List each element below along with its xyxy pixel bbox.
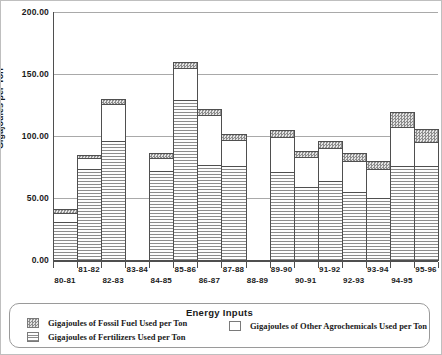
legend-entry: Gigajoules of Fertilizers Used per Ton [27,332,186,342]
x-tick-label: 90-91 [295,276,316,285]
bar-segment-82-83 [101,141,126,261]
legend-label: Gigajoules of Other Agrochemicals Used p… [250,321,427,331]
bar-segment-80-81 [53,222,78,261]
x-tick [294,262,295,268]
bar-segment-85-86 [173,100,198,261]
y-tick-label: 150.00 [9,69,49,79]
x-tick-label: 87-88 [223,265,244,274]
bar-segment-81-82 [77,155,102,160]
bar-segment-87-88 [221,140,246,167]
x-tick [390,262,391,268]
legend-swatch-white-icon [229,321,241,331]
bar-segment-92-93 [342,192,367,261]
y-axis-title: Gigajoules per Ton [0,68,5,149]
bar-segment-80-81 [53,213,78,223]
x-tick [101,262,102,268]
bar-segment-89-90 [270,137,295,173]
x-tick-label: 83-84 [126,265,147,274]
bar-segment-91-92 [318,148,343,181]
plot-area: 200.00150.00100.0050.000.0080-8181-8282-… [1,1,442,301]
bar-segment-92-93 [342,161,367,193]
bar-segment-91-92 [318,141,343,149]
x-tick-label: 88-89 [247,276,268,285]
x-tick-label: 92-93 [343,276,364,285]
bar-segment-95-96 [414,129,439,144]
bar-segment-94-95 [390,166,415,261]
x-tick-label: 86-87 [199,276,220,285]
bar-segment-93-94 [366,161,391,171]
bar-segment-87-88 [221,134,246,141]
bar-segment-86-87 [197,109,222,116]
x-tick [438,262,439,268]
bar-segment-94-95 [390,112,415,128]
x-tick-label: 82-83 [102,276,123,285]
bar-segment-85-86 [173,68,198,101]
bar-segment-90-91 [294,151,319,158]
bar-segment-84-85 [149,171,174,261]
x-tick [246,262,247,268]
x-tick [342,262,343,268]
gridline [53,12,438,13]
y-tick-label: 100.00 [9,131,49,141]
x-axis-title: Energy Inputs [10,307,429,318]
legend-entry: Gigajoules of Other Agrochemicals Used p… [229,321,427,331]
legend-entry: Gigajoules of Fossil Fuel Used per Ton [27,318,187,328]
bar-segment-82-83 [101,104,126,142]
bar-segment-84-85 [149,158,174,171]
bar-segment-81-82 [77,169,102,261]
x-tick-label: 91-92 [319,265,340,274]
bar-segment-82-83 [101,99,126,105]
bar-segment-89-90 [270,172,295,261]
y-tick-label: 50.00 [9,193,49,203]
x-tick [53,262,54,268]
y-tick-label: 0.00 [9,255,49,265]
bar-segment-85-86 [173,62,198,69]
x-tick-label: 95-96 [415,265,436,274]
gridline [53,74,438,75]
y-tick-label: 200.00 [9,7,49,17]
x-tick-label: 94-95 [391,276,412,285]
x-tick [197,262,198,268]
bar-segment-92-93 [342,153,367,161]
bar-segment-94-95 [390,127,415,166]
x-tick-label: 80-81 [54,276,75,285]
legend-swatch-lines-icon [27,332,39,342]
bar-segment-87-88 [221,166,246,261]
energy-inputs-chart: 200.00150.00100.0050.000.0080-8181-8282-… [0,0,442,355]
x-tick [149,262,150,268]
bar-segment-95-96 [414,142,439,167]
bar-segment-81-82 [77,158,102,170]
bar-segment-89-90 [270,130,295,138]
legend-box: Energy Inputs Gigajoules of Fossil Fuel … [9,303,430,348]
legend-label: Gigajoules of Fossil Fuel Used per Ton [48,318,187,328]
bar-segment-84-85 [149,153,174,159]
bar-segment-86-87 [197,115,222,166]
bar-segment-90-91 [294,157,319,188]
y-axis-line [53,12,54,266]
bar-segment-95-96 [414,166,439,261]
x-tick-label: 93-94 [367,265,388,274]
legend-swatch-stipple-icon [27,318,39,328]
x-tick-label: 81-82 [78,265,99,274]
x-tick-label: 84-85 [151,276,172,285]
legend-label: Gigajoules of Fertilizers Used per Ton [48,332,186,342]
bar-segment-91-92 [318,181,343,261]
bar-segment-93-94 [366,198,391,261]
bar-segment-86-87 [197,165,222,261]
x-tick-label: 89-90 [271,265,292,274]
bar-segment-80-81 [53,209,78,214]
x-tick-label: 85-86 [175,265,196,274]
bar-segment-90-91 [294,187,319,261]
bar-segment-93-94 [366,169,391,199]
